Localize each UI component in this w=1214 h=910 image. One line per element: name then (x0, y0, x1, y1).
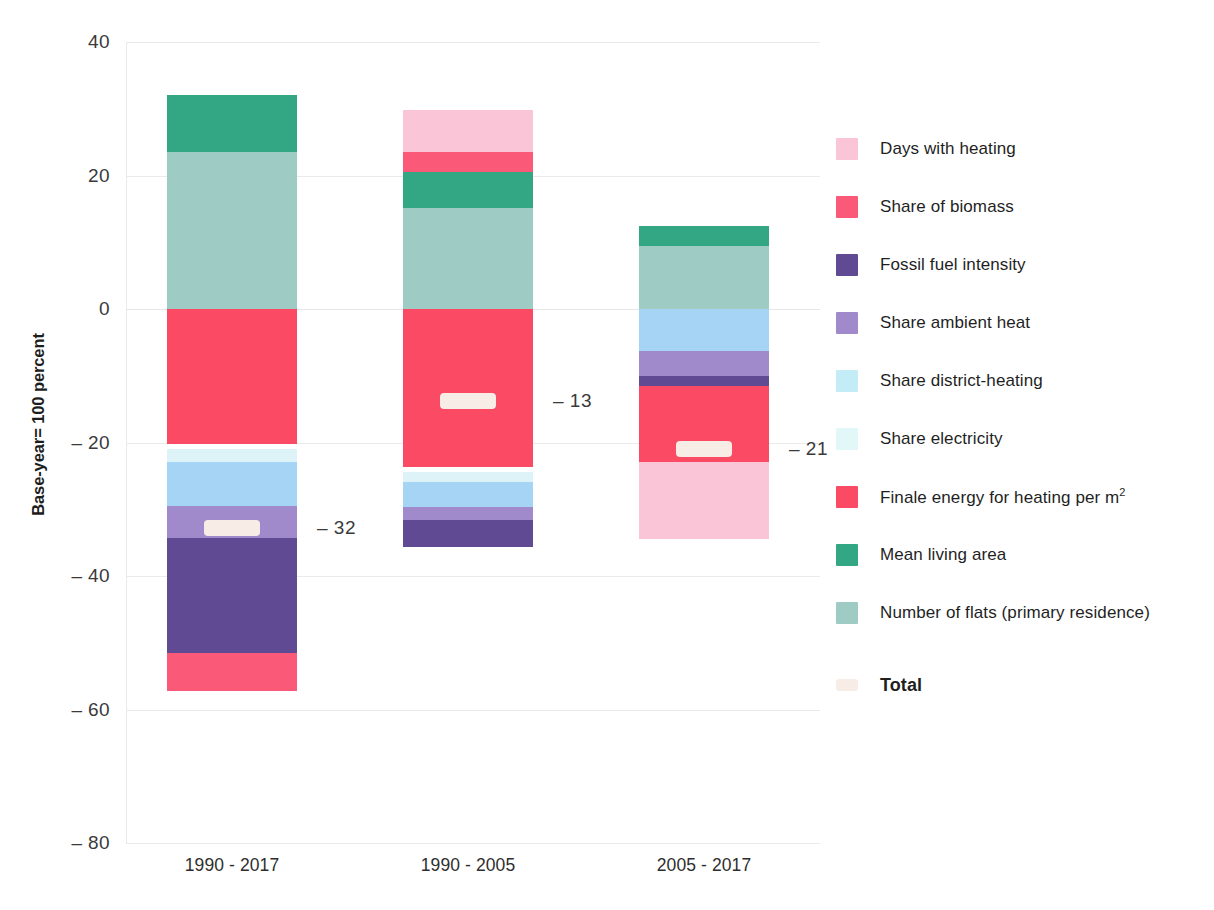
legend-item[interactable]: Number of flats (primary residence) (836, 584, 1206, 642)
y-tick-label: 0 (10, 298, 110, 320)
y-tick-label: – 40 (10, 565, 110, 587)
bar-segment[interactable] (167, 653, 297, 691)
bar-segment[interactable] (403, 152, 533, 172)
bar-segment[interactable] (403, 482, 533, 507)
bar-segment[interactable] (167, 95, 297, 152)
bar-segment[interactable] (639, 351, 769, 376)
bar-segment[interactable] (403, 172, 533, 207)
legend-item[interactable]: Share electricity (836, 410, 1206, 468)
bar-segment[interactable] (403, 472, 533, 482)
legend-label-superscript: 2 (1119, 486, 1125, 498)
chart-root: Base-year= 100 percent 40200– 20– 40– 60… (0, 0, 1214, 910)
legend-item[interactable]: Total (836, 656, 1206, 714)
legend-label: Share ambient heat (880, 313, 1030, 333)
legend-label: Total (880, 675, 922, 696)
total-label: – 21 (789, 438, 828, 460)
bar-group[interactable]: – 13 (403, 42, 533, 843)
bar-segment[interactable] (167, 152, 297, 309)
legend-swatch-icon (836, 196, 858, 218)
legend-swatch-icon (836, 679, 858, 691)
gridline--80 (126, 843, 820, 844)
bar-segment[interactable] (639, 226, 769, 246)
x-tick-label: 2005 - 2017 (574, 855, 834, 876)
legend-swatch-icon (836, 486, 858, 508)
legend-item[interactable]: Share of biomass (836, 178, 1206, 236)
legend-label: Share electricity (880, 429, 1003, 449)
y-tick-label: 40 (10, 31, 110, 53)
y-tick-label: 20 (10, 165, 110, 187)
legend-label: Finale energy for heating per m2 (880, 486, 1126, 508)
y-axis-tick-labels: 40200– 20– 40– 60– 80 (0, 42, 110, 843)
total-marker (440, 393, 496, 409)
x-tick-label: 1990 - 2017 (102, 855, 362, 876)
legend-swatch-icon (836, 312, 858, 334)
y-tick-label: – 20 (10, 432, 110, 454)
legend-swatch-icon (836, 254, 858, 276)
total-marker (204, 520, 260, 536)
legend-item[interactable]: Mean living area (836, 526, 1206, 584)
bar-segment[interactable] (403, 309, 533, 467)
legend: Days with heatingShare of biomassFossil … (836, 120, 1206, 714)
bar-segment[interactable] (639, 462, 769, 539)
legend-item[interactable]: Finale energy for heating per m2 (836, 468, 1206, 526)
total-marker (676, 441, 732, 457)
bar-segment[interactable] (167, 449, 297, 462)
legend-label: Mean living area (880, 545, 1006, 565)
y-tick-label: – 80 (10, 832, 110, 854)
bar-group[interactable]: – 21 (639, 42, 769, 843)
legend-swatch-icon (836, 428, 858, 450)
total-label: – 13 (553, 390, 592, 412)
y-tick-label: – 60 (10, 699, 110, 721)
legend-swatch-icon (836, 138, 858, 160)
bar-segment[interactable] (167, 538, 297, 653)
legend-label: Share district-heating (880, 371, 1043, 391)
total-label: – 32 (317, 517, 356, 539)
legend-swatch-icon (836, 602, 858, 624)
legend-label: Days with heating (880, 139, 1016, 159)
bar-segment[interactable] (639, 309, 769, 351)
legend-label: Number of flats (primary residence) (880, 603, 1150, 623)
legend-item[interactable]: Days with heating (836, 120, 1206, 178)
legend-item[interactable]: Share district-heating (836, 352, 1206, 410)
legend-label: Share of biomass (880, 197, 1014, 217)
bar-segment[interactable] (403, 208, 533, 309)
x-tick-label: 1990 - 2005 (338, 855, 598, 876)
bar-segment[interactable] (403, 507, 533, 520)
legend-item[interactable]: Share ambient heat (836, 294, 1206, 352)
legend-label: Fossil fuel intensity (880, 255, 1026, 275)
bar-segment[interactable] (167, 309, 297, 444)
legend-swatch-icon (836, 544, 858, 566)
bar-segment[interactable] (167, 462, 297, 505)
legend-item[interactable]: Fossil fuel intensity (836, 236, 1206, 294)
bar-segment[interactable] (403, 110, 533, 152)
bar-segment[interactable] (639, 376, 769, 386)
bar-segment[interactable] (403, 520, 533, 547)
bar-segment[interactable] (639, 246, 769, 309)
legend-swatch-icon (836, 370, 858, 392)
bar-group[interactable]: – 32 (167, 42, 297, 843)
plot-area: – 32– 13– 21 (126, 42, 820, 843)
